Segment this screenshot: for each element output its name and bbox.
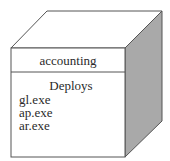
node-name: accounting: [39, 53, 97, 68]
deploys-heading: Deploys: [49, 78, 92, 93]
deployment-node-diagram: accounting Deploys gl.exe ap.exe ar.exe: [0, 0, 170, 161]
artifact-item: ar.exe: [19, 118, 50, 133]
